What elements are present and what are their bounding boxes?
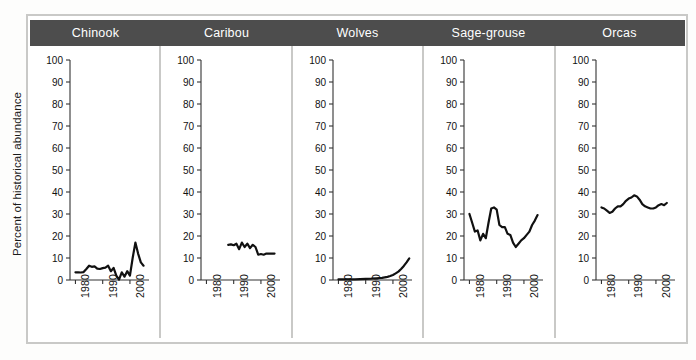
x-tick-label: 2000 (660, 274, 672, 298)
panels-container: 0102030405060708090100198019902000010203… (30, 46, 685, 338)
x-tick-label: 2000 (134, 274, 146, 298)
panel-title-wolves: Wolves (292, 20, 423, 46)
y-tick-label: 50 (52, 165, 64, 176)
y-tick-label: 20 (315, 231, 327, 242)
panel-title-caribou: Caribou (161, 20, 292, 46)
x-tick-label: 1990 (238, 274, 250, 298)
x-tick-label: 1980 (342, 274, 354, 298)
panel-chinook: 0102030405060708090100198019902000 (30, 46, 159, 338)
y-tick-label: 100 (46, 55, 63, 66)
y-tick-label: 100 (309, 55, 326, 66)
y-tick-label: 90 (183, 77, 195, 88)
y-tick-label: 50 (183, 165, 195, 176)
panel-wolves: 0102030405060708090100198019902000 (291, 46, 422, 338)
y-tick-label: 0 (189, 275, 195, 286)
x-tick-label: 1980 (211, 274, 223, 298)
y-tick-label: 70 (183, 121, 195, 132)
y-tick-label: 20 (578, 231, 590, 242)
x-tick-labels: 198019902000 (293, 292, 422, 338)
y-tick-label: 70 (315, 121, 327, 132)
y-tick-label: 10 (446, 253, 458, 264)
y-tick-label: 40 (52, 187, 64, 198)
y-tick-label: 40 (578, 187, 590, 198)
x-tick-labels: 198019902000 (424, 292, 553, 338)
y-tick-label: 90 (578, 77, 590, 88)
y-tick-label: 90 (446, 77, 458, 88)
x-tick-label: 1980 (605, 274, 617, 298)
y-tick-label: 60 (52, 143, 64, 154)
x-tick-label: 1980 (474, 274, 486, 298)
y-tick-label: 80 (52, 99, 64, 110)
y-tick-label: 10 (315, 253, 327, 264)
x-tick-label: 1980 (79, 274, 91, 298)
y-tick-label: 0 (320, 275, 326, 286)
y-tick-label: 50 (578, 165, 590, 176)
panel-title-chinook: Chinook (30, 20, 161, 46)
x-tick-labels: 198019902000 (556, 292, 685, 338)
y-tick-label: 70 (52, 121, 64, 132)
data-line-orcas (601, 195, 666, 213)
y-tick-label: 80 (578, 99, 590, 110)
y-tick-label: 0 (452, 275, 458, 286)
y-tick-label: 10 (578, 253, 590, 264)
y-tick-label: 100 (572, 55, 589, 66)
y-tick-label: 60 (446, 143, 458, 154)
y-tick-label: 40 (183, 187, 195, 198)
y-tick-label: 20 (183, 231, 195, 242)
y-tick-label: 90 (52, 77, 64, 88)
y-tick-label: 20 (446, 231, 458, 242)
y-tick-label: 100 (178, 55, 195, 66)
y-tick-label: 10 (52, 253, 64, 264)
y-tick-label: 70 (578, 121, 590, 132)
y-tick-label: 70 (446, 121, 458, 132)
y-tick-label: 50 (446, 165, 458, 176)
y-tick-label: 30 (183, 209, 195, 220)
panel-title-orcas: Orcas (554, 20, 685, 46)
y-tick-label: 30 (52, 209, 64, 220)
y-tick-label: 80 (446, 99, 458, 110)
y-tick-label: 30 (578, 209, 590, 220)
y-tick-label: 0 (583, 275, 589, 286)
y-tick-label: 10 (183, 253, 195, 264)
y-tick-label: 50 (315, 165, 327, 176)
y-tick-label: 40 (315, 187, 327, 198)
y-tick-label: 20 (52, 231, 64, 242)
x-tick-labels: 198019902000 (30, 292, 159, 338)
y-tick-label: 80 (315, 99, 327, 110)
y-tick-label: 60 (183, 143, 195, 154)
panel-caribou: 0102030405060708090100198019902000 (159, 46, 290, 338)
y-tick-label: 30 (446, 209, 458, 220)
x-tick-label: 2000 (528, 274, 540, 298)
panel-title-sage-grouse: Sage-grouse (423, 20, 554, 46)
y-tick-label: 60 (578, 143, 590, 154)
x-tick-label: 1990 (107, 274, 119, 298)
data-line-sage-grouse (470, 207, 538, 247)
x-tick-label: 1990 (632, 274, 644, 298)
x-tick-label: 2000 (265, 274, 277, 298)
y-tick-label: 60 (315, 143, 327, 154)
x-tick-labels: 198019902000 (161, 292, 290, 338)
x-tick-label: 2000 (397, 274, 409, 298)
panel-header-bar: ChinookCaribouWolvesSage-grouseOrcas (30, 20, 685, 46)
y-tick-label: 90 (315, 77, 327, 88)
y-tick-label: 30 (315, 209, 327, 220)
panel-orcas: 0102030405060708090100198019902000 (554, 46, 685, 338)
data-line-caribou (229, 243, 275, 255)
x-tick-label: 1990 (501, 274, 513, 298)
y-tick-label: 0 (57, 275, 63, 286)
panel-sage-grouse: 0102030405060708090100198019902000 (422, 46, 553, 338)
x-tick-label: 1990 (370, 274, 382, 298)
chart-figure: Percent of historical abundance ChinookC… (0, 0, 696, 360)
y-axis-label: Percent of historical abundance (11, 54, 23, 294)
y-tick-label: 100 (441, 55, 458, 66)
y-tick-label: 80 (183, 99, 195, 110)
y-tick-label: 40 (446, 187, 458, 198)
